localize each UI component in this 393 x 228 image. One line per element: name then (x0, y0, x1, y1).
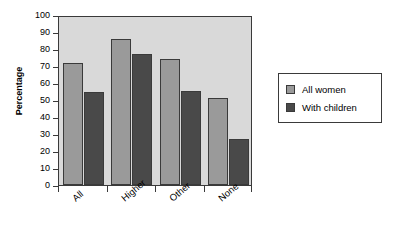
plot-area (58, 16, 252, 186)
legend-swatch-icon (286, 85, 295, 94)
x-axis-tick-mark (58, 186, 59, 192)
x-axis-tick-mark (204, 186, 205, 192)
y-axis-tick-label: 100 (35, 10, 50, 20)
y-axis-tick-label: 0 (45, 180, 50, 190)
bar (181, 91, 201, 185)
bar-group (111, 17, 152, 185)
legend-item-label: All women (302, 84, 346, 95)
legend-item: All women (286, 80, 374, 98)
y-axis-tick-label: 30 (40, 129, 50, 139)
y-axis-tick-label: 50 (40, 95, 50, 105)
bar (63, 63, 83, 185)
bar-group (63, 17, 104, 185)
x-axis-tick-label: All (70, 188, 85, 203)
bar (84, 92, 104, 186)
bar (229, 139, 249, 185)
y-axis-tick-label: 70 (40, 61, 50, 71)
bar (132, 54, 152, 185)
bar-group (160, 17, 201, 185)
y-axis-tick-label: 20 (40, 146, 50, 156)
bar (160, 59, 180, 185)
y-axis-tick-label: 10 (40, 163, 50, 173)
x-axis: AllHigherOtherNone (58, 186, 252, 228)
bar-chart-figure: Percentage 0102030405060708090100 AllHig… (0, 0, 393, 228)
y-axis-tick-label: 40 (40, 112, 50, 122)
bar (111, 39, 131, 185)
y-axis-tick-label: 90 (40, 27, 50, 37)
x-axis-tick-mark (107, 186, 108, 192)
legend-swatch-icon (286, 103, 295, 112)
y-axis-tick-label: 60 (40, 78, 50, 88)
x-axis-tick-mark (251, 186, 252, 192)
legend-item: With children (286, 98, 374, 116)
y-axis: 0102030405060708090100 (0, 16, 58, 186)
bar (208, 98, 228, 185)
bar-group (208, 17, 249, 185)
x-axis-tick-mark (155, 186, 156, 192)
y-axis-tick-label: 80 (40, 44, 50, 54)
chart-legend: All womenWith children (278, 73, 382, 123)
legend-item-label: With children (302, 102, 357, 113)
